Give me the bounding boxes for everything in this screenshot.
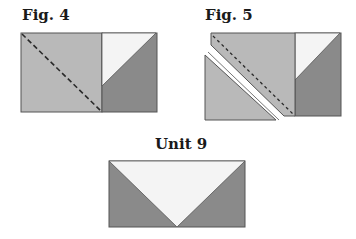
fig4-light-square xyxy=(21,33,102,112)
fig5-diagram xyxy=(205,33,341,120)
unit9-diagram xyxy=(109,161,245,227)
fig4-diagram xyxy=(21,33,157,112)
quilt-diagram xyxy=(0,0,356,239)
